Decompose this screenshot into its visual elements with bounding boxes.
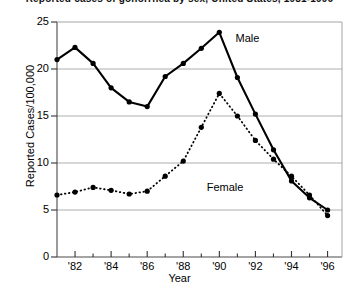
series-line-male bbox=[57, 32, 328, 210]
data-point-marker bbox=[325, 207, 330, 212]
data-point-marker bbox=[217, 30, 222, 35]
data-point-marker bbox=[109, 85, 114, 90]
data-point-marker bbox=[325, 213, 330, 218]
x-tick-label: '96 bbox=[313, 260, 343, 272]
data-point-marker bbox=[72, 190, 77, 195]
data-point-marker bbox=[289, 174, 294, 179]
series-annotation-female: Female bbox=[207, 181, 244, 193]
data-point-marker bbox=[127, 191, 132, 196]
chart-figure: Reported cases of gonorrhea by sex, Unit… bbox=[0, 0, 359, 293]
data-point-marker bbox=[181, 159, 186, 164]
data-point-marker bbox=[145, 104, 150, 109]
data-point-marker bbox=[307, 192, 312, 197]
data-point-marker bbox=[181, 61, 186, 66]
data-point-marker bbox=[217, 91, 222, 96]
data-point-marker bbox=[253, 138, 258, 143]
y-tick-label: 0 bbox=[23, 250, 49, 262]
data-point-marker bbox=[163, 74, 168, 79]
plot-frame bbox=[57, 22, 342, 257]
x-tick-label: '94 bbox=[276, 260, 306, 272]
x-tick-label: '88 bbox=[168, 260, 198, 272]
x-tick-label: '82 bbox=[60, 260, 90, 272]
data-point-marker bbox=[109, 188, 114, 193]
data-point-marker bbox=[271, 157, 276, 162]
data-point-marker bbox=[235, 113, 240, 118]
data-point-marker bbox=[54, 192, 59, 197]
series-annotation-male: Male bbox=[236, 32, 260, 44]
y-tick-label: 20 bbox=[23, 62, 49, 74]
data-point-marker bbox=[91, 61, 96, 66]
series-markers-female bbox=[54, 91, 330, 218]
x-axis-ticks bbox=[75, 251, 328, 257]
y-axis-label: Reported Cases/100,000 bbox=[24, 31, 36, 221]
x-tick-label: '86 bbox=[132, 260, 162, 272]
x-tick-label: '84 bbox=[96, 260, 126, 272]
data-point-marker bbox=[127, 99, 132, 104]
data-point-marker bbox=[54, 57, 59, 62]
data-point-marker bbox=[72, 45, 77, 50]
y-tick-label: 25 bbox=[23, 15, 49, 27]
line-chart-plot bbox=[0, 0, 359, 293]
data-point-marker bbox=[91, 185, 96, 190]
data-point-marker bbox=[145, 189, 150, 194]
data-point-marker bbox=[235, 75, 240, 80]
data-point-marker bbox=[271, 147, 276, 152]
y-tick-label: 15 bbox=[23, 109, 49, 121]
data-point-marker bbox=[253, 112, 258, 117]
data-point-marker bbox=[289, 178, 294, 183]
data-point-marker bbox=[199, 46, 204, 51]
x-axis-label: Year bbox=[0, 272, 359, 284]
series-line-female bbox=[57, 93, 328, 215]
y-tick-label: 5 bbox=[23, 203, 49, 215]
data-point-marker bbox=[163, 174, 168, 179]
x-tick-label: '90 bbox=[204, 260, 234, 272]
y-tick-label: 10 bbox=[23, 156, 49, 168]
data-point-marker bbox=[199, 125, 204, 130]
x-tick-label: '92 bbox=[240, 260, 270, 272]
